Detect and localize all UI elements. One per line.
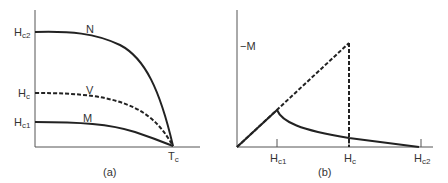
label-hc1-a: Hc1 (14, 116, 31, 130)
curve-n (35, 32, 173, 146)
label-m: M (83, 112, 92, 124)
meissner-segment (237, 110, 277, 147)
label-hc2-a: Hc2 (14, 26, 31, 40)
label-hc-a: Hc (18, 87, 30, 101)
panel-a: Hc2 Hc Hc1 N V M Tc (a) (14, 10, 200, 178)
label-n: N (86, 23, 94, 35)
label-hc1-b: Hc1 (270, 152, 287, 166)
label-minus-m: −M (240, 40, 256, 52)
label-tc: Tc (168, 150, 179, 164)
caption-b: (b) (318, 166, 331, 178)
label-hc2-b: Hc2 (414, 152, 431, 166)
diagram: Hc2 Hc Hc1 N V M Tc (a) −M Hc1 Hc Hc2 (b… (0, 0, 448, 183)
label-v: V (86, 84, 94, 96)
curve-m (35, 122, 173, 146)
label-hc-b: Hc (344, 152, 356, 166)
panel-b: −M Hc1 Hc Hc2 (b) (237, 10, 433, 178)
caption-a: (a) (103, 166, 116, 178)
